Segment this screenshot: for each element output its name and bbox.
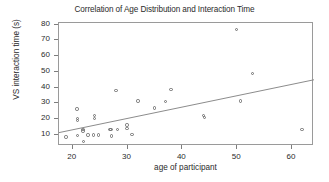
data-point <box>64 135 67 138</box>
data-point <box>164 100 167 103</box>
data-point <box>169 88 172 91</box>
y-tick-mark <box>54 134 58 135</box>
y-tick-mark <box>54 71 58 72</box>
chart-container: Correlation of Age Distribution and Inte… <box>0 0 329 182</box>
y-tick-label: 50 <box>28 66 50 75</box>
y-tick-label: 20 <box>28 113 50 122</box>
x-tick-mark <box>127 145 128 149</box>
y-tick-label: 10 <box>28 129 50 138</box>
x-tick-label: 40 <box>166 152 196 161</box>
data-point <box>239 99 242 102</box>
y-tick-mark <box>54 55 58 56</box>
data-point <box>125 127 128 130</box>
data-point <box>97 133 100 136</box>
y-tick-mark <box>54 24 58 25</box>
data-point <box>75 107 78 110</box>
y-tick-label: 70 <box>28 34 50 43</box>
plot-area <box>58 22 313 145</box>
y-tick-label: 30 <box>28 97 50 106</box>
y-tick-label: 40 <box>28 82 50 91</box>
data-point <box>92 133 95 136</box>
data-point <box>86 133 89 136</box>
x-axis-label: age of participant <box>58 163 313 172</box>
y-tick-mark <box>54 87 58 88</box>
y-tick-mark <box>54 39 58 40</box>
x-tick-label: 20 <box>57 152 87 161</box>
y-tick-label: 60 <box>28 50 50 59</box>
x-tick-mark <box>181 145 182 149</box>
trend-line <box>59 23 314 146</box>
data-point <box>130 133 133 136</box>
x-tick-label: 50 <box>221 152 251 161</box>
x-tick-mark <box>291 145 292 149</box>
y-tick-label: 80 <box>28 19 50 28</box>
y-tick-mark <box>54 102 58 103</box>
x-tick-label: 60 <box>276 152 306 161</box>
data-point <box>300 128 303 131</box>
x-tick-mark <box>236 145 237 149</box>
y-tick-mark <box>54 118 58 119</box>
y-axis-label: VS interaction time (s) <box>12 0 21 125</box>
x-tick-mark <box>72 145 73 149</box>
chart-title: Correlation of Age Distribution and Inte… <box>0 5 329 14</box>
data-point <box>153 106 156 109</box>
x-tick-label: 30 <box>112 152 142 161</box>
data-point <box>136 99 139 102</box>
data-point <box>81 129 84 132</box>
